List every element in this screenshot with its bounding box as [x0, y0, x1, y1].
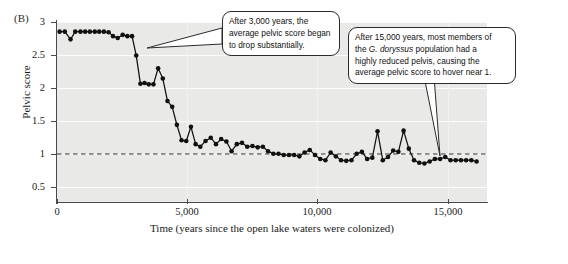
data-point: [156, 66, 161, 71]
callout-3000-years: After 3,000 years, the average pelvic sc…: [222, 11, 340, 56]
y-axis-line: [56, 20, 57, 204]
figure-panel-b: (B) 3 2.5 2 1.5 1 0.5 0 5,000 10,000 15,…: [0, 0, 568, 264]
data-point: [120, 33, 125, 38]
data-point: [219, 137, 224, 142]
data-point: [401, 128, 406, 133]
data-point: [427, 159, 432, 164]
y-tick-3: [51, 22, 56, 23]
data-point: [224, 139, 229, 144]
data-point: [328, 150, 333, 155]
data-point: [83, 29, 88, 34]
data-point: [417, 160, 422, 165]
data-point: [276, 151, 281, 156]
callout-2-line-2: the G. doryssus population had a: [355, 44, 509, 56]
data-point: [68, 37, 73, 42]
data-point: [266, 149, 271, 154]
data-point: [281, 153, 286, 158]
data-point: [318, 157, 323, 162]
data-point: [433, 157, 438, 162]
y-tick-label-3: 3: [5, 16, 45, 27]
data-point: [453, 158, 458, 163]
data-point: [125, 34, 130, 39]
data-point: [102, 29, 107, 34]
data-point: [448, 158, 453, 163]
x-axis-label: Time (years since the open lake waters w…: [57, 222, 487, 234]
x-axis-line: [56, 202, 488, 203]
data-point: [208, 135, 213, 140]
callout-1-line-1: After 3,000 years, the: [229, 16, 333, 28]
callout-2-line-4: average pelvic score to hover near 1.: [355, 67, 509, 79]
x-tick-10000: [317, 199, 318, 204]
callout-2-line-1: After 15,000 years, most members of: [355, 32, 509, 44]
data-point: [193, 142, 198, 147]
data-point: [198, 144, 203, 149]
data-point: [138, 81, 143, 86]
callout-15000-years: After 15,000 years, most members of the …: [348, 27, 516, 84]
data-point: [313, 153, 318, 158]
data-point: [161, 76, 166, 81]
data-point: [360, 150, 365, 155]
data-point: [106, 30, 111, 35]
data-point: [271, 151, 276, 156]
y-tick-1: [51, 154, 56, 155]
callout-2-line-3: highly reduced pelvis, causing the: [355, 56, 509, 68]
data-point: [396, 150, 401, 155]
data-point: [184, 139, 189, 144]
y-tick-1-5: [51, 121, 56, 122]
data-point: [438, 157, 443, 162]
data-point: [443, 155, 448, 160]
callout-1-line-2: average pelvic score began: [229, 28, 333, 40]
data-point: [469, 158, 474, 163]
data-point: [339, 158, 344, 163]
data-point: [97, 29, 102, 34]
data-point: [240, 141, 245, 146]
data-point: [386, 155, 391, 160]
y-tick-label-0-5: 0.5: [5, 181, 45, 192]
data-point: [235, 142, 240, 147]
data-point: [464, 158, 469, 163]
y-tick-2-5: [51, 55, 56, 56]
data-point: [261, 144, 266, 149]
data-point: [459, 158, 464, 163]
data-point: [57, 29, 62, 34]
data-point: [78, 29, 83, 34]
data-point: [375, 129, 380, 134]
data-point: [175, 123, 180, 128]
data-point: [391, 148, 396, 153]
data-point: [146, 82, 151, 87]
data-point: [474, 159, 479, 164]
data-point: [370, 155, 375, 160]
data-point: [229, 149, 234, 154]
data-point: [292, 153, 297, 158]
x-tick-label-5000: 5,000: [152, 206, 222, 217]
data-point: [115, 36, 120, 41]
y-tick-0-5: [51, 187, 56, 188]
data-point: [380, 158, 385, 163]
data-point: [344, 159, 349, 164]
data-point: [302, 150, 307, 155]
data-point: [92, 29, 97, 34]
x-tick-15000: [448, 199, 449, 204]
x-tick-label-10000: 10,000: [282, 206, 352, 217]
species-name: G. doryssus: [369, 44, 413, 54]
data-point: [151, 82, 156, 87]
x-tick-label-0: 0: [22, 206, 92, 217]
data-point: [245, 144, 250, 149]
data-point: [307, 148, 312, 153]
data-point: [142, 81, 147, 86]
data-point: [88, 29, 93, 34]
data-point: [354, 151, 359, 156]
data-point: [111, 34, 116, 39]
data-point: [179, 138, 184, 143]
data-point: [287, 153, 292, 158]
data-point: [412, 158, 417, 163]
y-tick-2: [51, 88, 56, 89]
callout-1-line-3: to drop substantially.: [229, 40, 333, 52]
data-point: [165, 99, 170, 104]
data-point: [63, 29, 68, 34]
y-tick-label-1: 1: [5, 148, 45, 159]
data-point: [189, 124, 194, 129]
x-tick-5000: [187, 199, 188, 204]
data-point: [297, 154, 302, 159]
data-point: [170, 105, 175, 110]
